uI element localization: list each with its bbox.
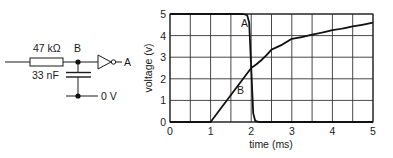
- ground-label: 0 V: [101, 90, 117, 102]
- x-tick-label: 0: [167, 125, 173, 137]
- y-tick-label: 1: [160, 94, 166, 106]
- y-tick-label: 0: [160, 116, 166, 128]
- y-tick-label: 2: [160, 73, 166, 85]
- x-tick-label: 3: [289, 125, 295, 137]
- y-tick-label: 5: [160, 8, 166, 20]
- ground-node-dot: [75, 93, 80, 98]
- y-tick-label: 3: [160, 51, 166, 63]
- curve-label-a: A: [241, 17, 248, 29]
- output-label: A: [124, 56, 131, 68]
- capacitor-label: 33 nF: [32, 69, 59, 81]
- x-tick-label: 4: [329, 125, 335, 137]
- chart-ticks: 012345012345: [160, 8, 376, 137]
- voltage-time-chart: AB 012345012345 voltage (v) time (ms): [142, 8, 376, 150]
- y-axis-label: voltage (v): [142, 43, 154, 92]
- curve-label-b: B: [237, 84, 244, 96]
- y-tick-label: 4: [160, 30, 166, 42]
- figure: 47 kΩ B A 33 nF 0 V AB 012345012345 volt…: [0, 0, 393, 158]
- x-tick-label: 1: [208, 125, 214, 137]
- circuit-diagram: 47 kΩ B A 33 nF 0 V: [5, 42, 131, 102]
- x-tick-label: 2: [248, 125, 254, 137]
- resistor-icon: [30, 58, 63, 66]
- inverter-icon: [98, 55, 111, 69]
- node-b-label: B: [74, 42, 81, 54]
- x-axis-label: time (ms): [249, 138, 293, 150]
- resistor-label: 47 kΩ: [33, 42, 61, 54]
- inverter-bubble-icon: [111, 60, 115, 64]
- chart-grid: [170, 14, 373, 122]
- x-tick-label: 5: [370, 125, 376, 137]
